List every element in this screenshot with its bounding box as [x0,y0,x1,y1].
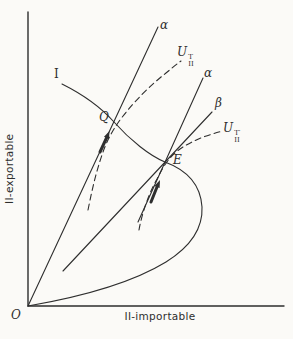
alpha-ray-1 [28,27,158,306]
alpha-ray-2-label: α [204,67,212,79]
beta-line-label: β [215,97,222,109]
axes-lines [28,12,284,306]
point-e-label: E [173,154,182,166]
utility-curve-t-prime-label: UT′II [223,122,240,145]
offer-curve-1 [28,84,202,306]
beta-line [63,112,212,271]
utility-curve-t-label: UTII [177,46,194,69]
utility-t-prime-subscript: II [234,137,240,144]
arrowhead-q-icon [104,131,110,139]
x-axis-label: II-importable [60,311,260,322]
offer-curve-label: I [54,68,59,80]
origin-label: O [11,309,21,321]
utility-t-subscript: II [188,61,194,68]
y-axis-label: II-exportable [4,134,15,204]
alpha-ray-1-label: α [160,19,168,31]
diagram-drawing [0,0,293,339]
indifference-curve-t [88,61,181,210]
point-q-label: Q [99,111,109,123]
trade-indifference-diagram: α UTII α β UT′II I Q E O II-exportable I… [0,0,293,339]
